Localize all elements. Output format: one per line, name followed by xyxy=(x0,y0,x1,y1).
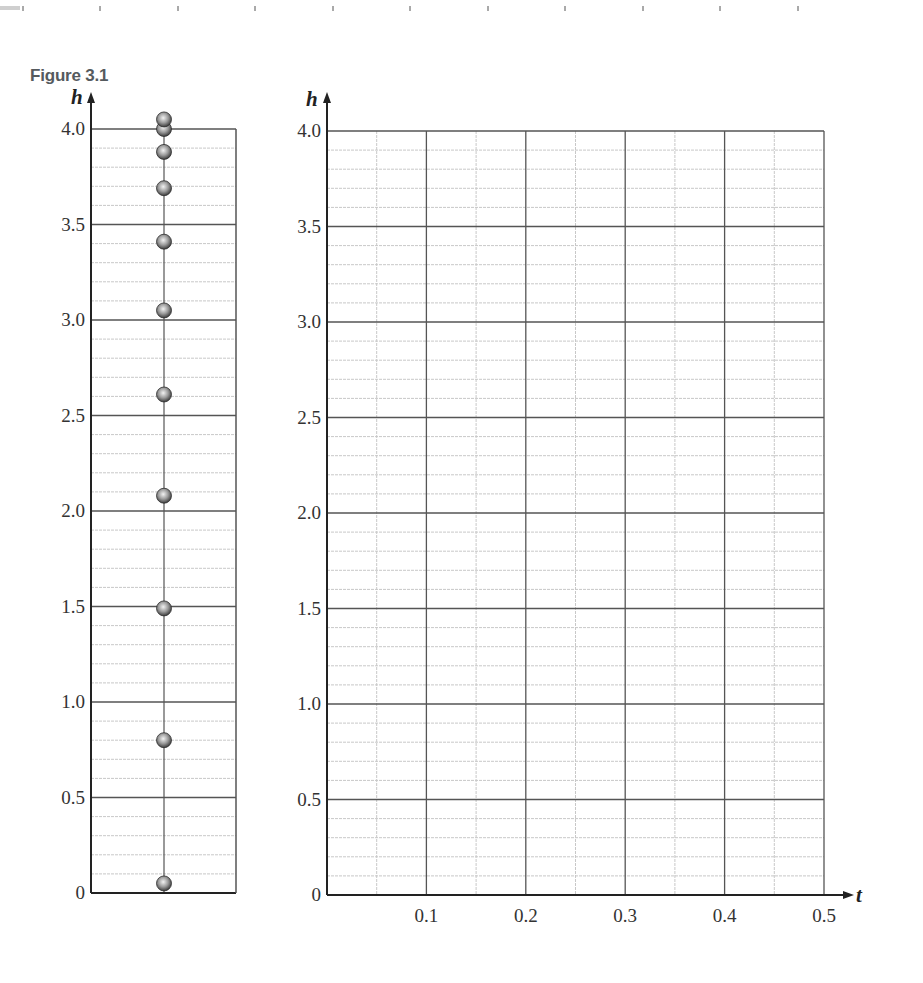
y-tick-label: 0.5 xyxy=(61,787,85,808)
y-tick-label: 1.0 xyxy=(297,693,321,714)
ball-marker xyxy=(157,144,172,159)
ball-marker xyxy=(157,601,172,616)
x-tick-label: 0.4 xyxy=(713,905,737,926)
y-tick-label: 1.5 xyxy=(61,596,85,617)
y-tick-label: 1.0 xyxy=(61,691,85,712)
y-tick-label: 3.5 xyxy=(61,214,85,235)
y-tick-label: 2.0 xyxy=(297,502,321,523)
ball-marker xyxy=(157,112,172,127)
y-axis-arrow-icon xyxy=(87,92,95,103)
ball-marker xyxy=(157,876,172,891)
figure-canvas: 00.51.01.52.02.53.03.54.0 h 00.51.01.52.… xyxy=(0,0,923,983)
y-axis-arrow-icon xyxy=(323,92,331,103)
y-tick-label: 0 xyxy=(76,882,86,903)
x-tick-label: 0.5 xyxy=(812,905,836,926)
y-tick-label: 1.5 xyxy=(297,598,321,619)
y-tick-label: 2.5 xyxy=(61,405,85,426)
right-y-tick-labels: 00.51.01.52.02.53.03.54.0 xyxy=(297,120,321,905)
left-y-tick-labels: 00.51.01.52.02.53.03.54.0 xyxy=(61,118,85,903)
ball-marker xyxy=(157,733,172,748)
y-tick-label: 3.5 xyxy=(297,216,321,237)
ball-marker xyxy=(157,387,172,402)
x-tick-label: 0.1 xyxy=(415,905,439,926)
ball-marker xyxy=(157,488,172,503)
y-tick-label: 3.0 xyxy=(61,309,85,330)
ball-marker xyxy=(157,234,172,249)
x-axis-arrow-icon xyxy=(843,891,854,899)
y-tick-label: 3.0 xyxy=(297,311,321,332)
y-tick-label: 2.0 xyxy=(61,500,85,521)
right-x-tick-labels: 0.10.20.30.40.5 xyxy=(415,905,836,926)
ball-marker xyxy=(157,181,172,196)
h-vs-t-grid-chart: 00.51.01.52.02.53.03.54.0 0.10.20.30.40.… xyxy=(297,87,863,926)
y-tick-label: 4.0 xyxy=(61,118,85,139)
y-tick-label: 0 xyxy=(312,884,322,905)
y-tick-label: 2.5 xyxy=(297,407,321,428)
right-x-axis-label: t xyxy=(856,883,863,907)
right-y-axis-label: h xyxy=(306,87,318,111)
left-y-axis-label: h xyxy=(71,85,83,109)
y-tick-label: 0.5 xyxy=(297,789,321,810)
x-tick-label: 0.2 xyxy=(514,905,538,926)
ball-strobe-chart: 00.51.01.52.02.53.03.54.0 h xyxy=(61,85,236,903)
ball-marker xyxy=(157,303,172,318)
x-tick-label: 0.3 xyxy=(613,905,637,926)
y-tick-label: 4.0 xyxy=(297,120,321,141)
